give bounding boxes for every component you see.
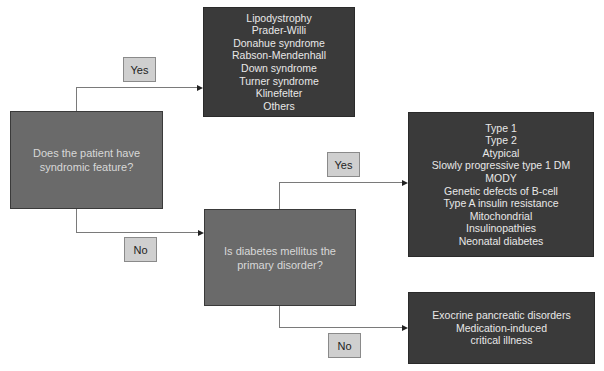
list-item: Insulinopathies xyxy=(466,222,536,235)
question-line: Does the patient have xyxy=(33,146,140,160)
question-line: primary disorder? xyxy=(237,258,323,272)
list-item: Down syndrome xyxy=(241,62,317,75)
list-item: Rabson-Mendenhall xyxy=(232,49,326,62)
list-item: Type A insulin resistance xyxy=(444,197,559,210)
list-item: Donahue syndrome xyxy=(233,37,325,50)
outcome-primary-dm-types: Type 1 Type 2 Atypical Slowly progressiv… xyxy=(408,112,594,257)
connector-q2-yes-vertical xyxy=(279,182,280,209)
list-item: Type 2 xyxy=(485,134,517,147)
list-item: Type 1 xyxy=(485,122,517,135)
list-item: Turner syndrome xyxy=(239,75,319,88)
connector-q2-no-vertical xyxy=(279,305,280,327)
edge-label-q2-yes: Yes xyxy=(327,152,360,177)
edge-label-q1-yes: Yes xyxy=(123,57,156,82)
list-item: Lipodystrophy xyxy=(246,12,311,25)
question-dm-primary-disorder: Is diabetes mellitus the primary disorde… xyxy=(204,209,356,306)
connector-q1-yes-horizontal xyxy=(76,87,197,88)
list-item: Genetic defects of B-cell xyxy=(444,185,558,198)
edge-label-q2-no: No xyxy=(328,333,361,358)
list-item: Atypical xyxy=(483,147,520,160)
question-syndromic-feature: Does the patient have syndromic feature? xyxy=(10,111,163,209)
list-item: Exocrine pancreatic disorders xyxy=(432,309,570,322)
list-item: Prader-Willi xyxy=(252,24,306,37)
list-item: Slowly progressive type 1 DM xyxy=(432,159,570,172)
connector-q2-no-horizontal xyxy=(279,327,402,328)
connector-q1-yes-vertical xyxy=(76,87,77,111)
connector-q1-no-horizontal xyxy=(76,232,198,233)
list-item: Neonatal diabetes xyxy=(459,235,544,248)
list-item: critical illness xyxy=(471,334,533,347)
edge-label-q1-no: No xyxy=(124,237,157,262)
list-item: Klinefelter xyxy=(256,87,303,100)
list-item: Medication-induced xyxy=(456,322,547,335)
question-line: syndromic feature? xyxy=(40,160,134,174)
list-item: Mitochondrial xyxy=(470,210,532,223)
connector-q2-yes-horizontal xyxy=(279,182,402,183)
outcome-secondary-causes: Exocrine pancreatic disorders Medication… xyxy=(408,292,595,364)
connector-q1-no-vertical xyxy=(76,208,77,232)
list-item: MODY xyxy=(485,172,517,185)
list-item: Others xyxy=(263,100,295,113)
outcome-syndromes-list: Lipodystrophy Prader-Willi Donahue syndr… xyxy=(203,7,355,117)
question-line: Is diabetes mellitus the xyxy=(224,244,336,258)
